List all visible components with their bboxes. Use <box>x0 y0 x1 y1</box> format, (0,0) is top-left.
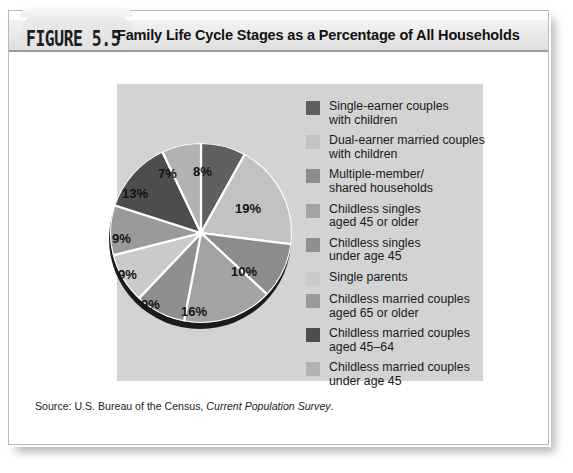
source-prefix: Source: U.S. Bureau of the Census, <box>35 400 206 412</box>
legend-item: Single parents <box>306 271 486 286</box>
figure-number-tab-highlight <box>20 7 133 17</box>
pie-slice-value: 9% <box>112 231 131 246</box>
legend-color-swatch <box>306 272 320 286</box>
legend-item: Single-earner couples with children <box>306 100 486 127</box>
pie-slice-value: 16% <box>181 304 207 319</box>
legend-item-label: Childless married couples aged 65 or old… <box>329 293 470 320</box>
legend-item-label: Multiple-member/ shared households <box>329 168 433 195</box>
legend-item-label: Single-earner couples with children <box>329 100 449 127</box>
legend-item-label: Dual-earner married couples with childre… <box>329 134 485 161</box>
legend-color-swatch <box>306 204 320 218</box>
source-publication: Current Population Survey <box>206 400 330 412</box>
source-suffix: . <box>331 400 334 412</box>
legend-item-label: Childless married couples aged 45–64 <box>329 327 470 354</box>
pie-slice-value: 13% <box>122 186 148 201</box>
legend-item: Childless married couples under age 45 <box>306 361 486 388</box>
pie-slice-value: 7% <box>158 166 177 181</box>
legend-item: Multiple-member/ shared households <box>306 168 486 195</box>
legend-color-swatch <box>306 294 320 308</box>
figure-container: FIGURE 5.5 Family Life Cycle Stages as a… <box>0 0 573 473</box>
legend-color-swatch <box>306 101 320 115</box>
legend-item: Childless married couples aged 45–64 <box>306 327 486 354</box>
legend-color-swatch <box>306 362 320 376</box>
legend-item-label: Childless singles aged 45 or older <box>329 203 421 230</box>
legend-item: Childless singles under age 45 <box>306 237 486 264</box>
figure-number-label: FIGURE 5.5 <box>26 26 115 51</box>
pie-slice-value: 10% <box>231 264 257 279</box>
legend-item: Dual-earner married couples with childre… <box>306 134 486 161</box>
legend-item: Childless married couples aged 65 or old… <box>306 293 486 320</box>
legend-item: Childless singles aged 45 or older <box>306 203 486 230</box>
source-note: Source: U.S. Bureau of the Census, Curre… <box>35 400 334 412</box>
legend-item-label: Single parents <box>329 271 408 285</box>
pie-slice-value: 9% <box>118 267 137 282</box>
legend-item-label: Childless singles under age 45 <box>329 237 421 264</box>
chart-legend: Single-earner couples with childrenDual-… <box>306 100 486 396</box>
figure-title: Family Life Cycle Stages as a Percentage… <box>117 27 520 43</box>
pie-chart: 8%19%10%16%9%9%9%13%7% <box>107 141 297 333</box>
pie-slice-value: 9% <box>141 297 160 312</box>
legend-color-swatch <box>306 169 320 183</box>
legend-color-swatch <box>306 328 320 342</box>
legend-item-label: Childless married couples under age 45 <box>329 361 470 388</box>
pie-slice-value: 19% <box>235 201 261 216</box>
legend-color-swatch <box>306 135 320 149</box>
legend-color-swatch <box>306 238 320 252</box>
pie-slice-value: 8% <box>193 164 212 179</box>
